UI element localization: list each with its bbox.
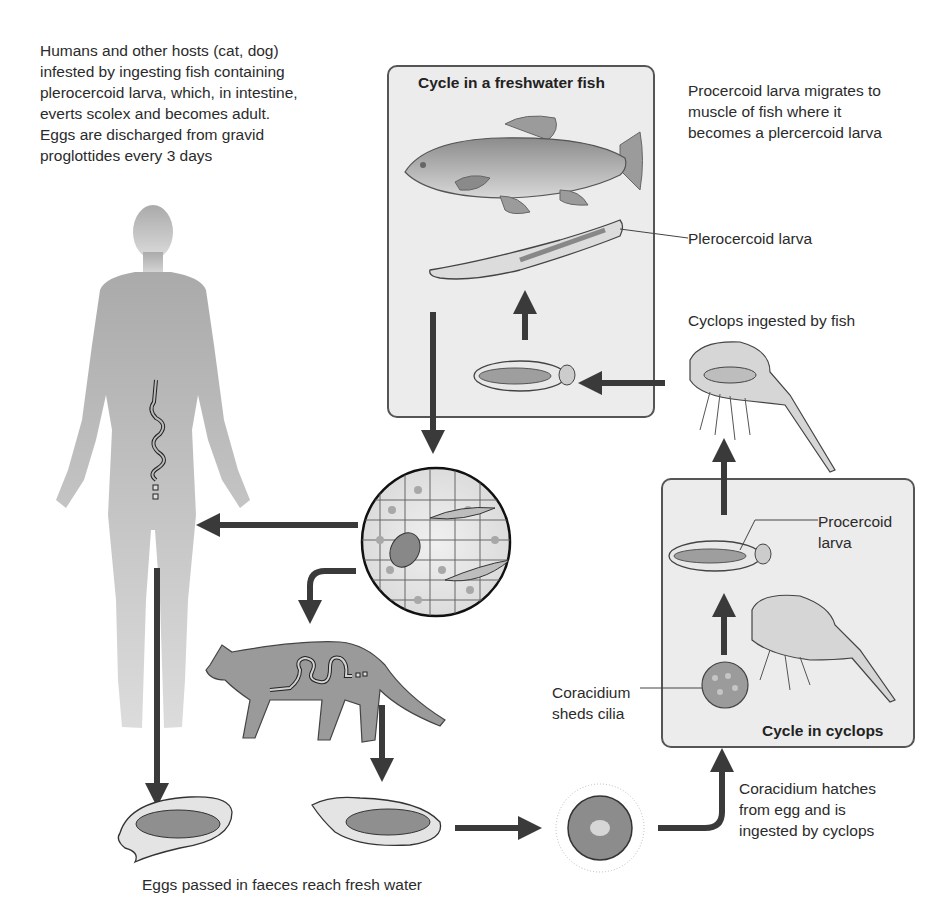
egg-in-faeces-cat (312, 797, 441, 845)
procercoid-larva-in-cyclops-illustration (669, 541, 771, 571)
coracidium-sheds-cilia-illustration (702, 662, 748, 708)
arrow-tissue-to-cat (310, 571, 356, 612)
egg-in-faeces-human (118, 797, 232, 862)
cat-host-illustration (206, 642, 445, 742)
cyclops-host-illustration (752, 595, 895, 702)
fish-muscle-tissue-illustration (362, 468, 510, 620)
arrow-coracidium-to-cyclops (658, 760, 722, 828)
procercoid-larva-in-fish-illustration (474, 361, 575, 391)
lifecycle-illustration (0, 0, 948, 903)
plerocercoid-larva-illustration (430, 220, 623, 279)
cyclops-ingested-illustration (690, 342, 835, 472)
freshwater-fish-illustration (405, 116, 643, 214)
ciliated-coracidium-illustration (556, 784, 644, 872)
